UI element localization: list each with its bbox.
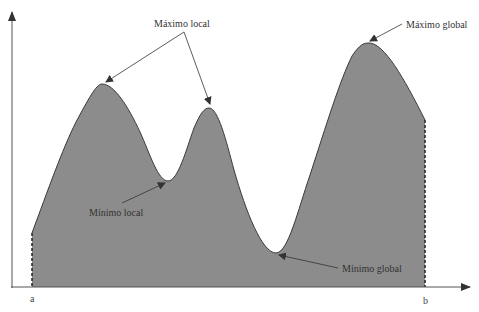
arrow-max-local-1 [106, 32, 184, 82]
label-min-global: Mínimo global [342, 263, 402, 274]
x-label-b: b [423, 295, 428, 306]
label-max-local: Máximo local [154, 18, 210, 29]
function-area [32, 43, 425, 287]
x-label-a: a [30, 293, 35, 304]
arrow-max-local-2 [184, 32, 210, 104]
extrema-diagram: a b Máximo local Mínimo local Máximo glo… [0, 0, 479, 312]
label-min-local: Mínimo local [89, 207, 143, 218]
arrow-max-global [370, 24, 402, 41]
label-max-global: Máximo global [406, 19, 468, 30]
